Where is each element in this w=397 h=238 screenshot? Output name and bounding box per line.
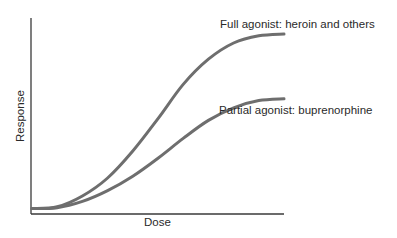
full-agonist-curve xyxy=(32,34,284,209)
x-axis-label: Dose xyxy=(144,216,171,228)
dose-response-chart xyxy=(0,0,397,238)
y-axis-label: Response xyxy=(14,90,26,142)
full-agonist-label: Full agonist: heroin and others xyxy=(220,18,375,30)
partial-agonist-label: Partial agonist: buprenorphine xyxy=(219,104,372,116)
